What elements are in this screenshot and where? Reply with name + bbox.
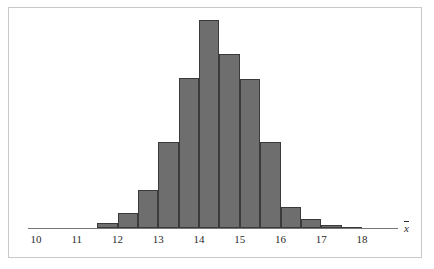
histogram-bar: [199, 20, 219, 228]
x-axis-title: x: [404, 221, 409, 235]
histogram-bar: [118, 213, 138, 228]
x-axis-tick-label: 18: [348, 233, 376, 246]
histogram-bar: [301, 219, 321, 228]
x-axis-tick-label: 15: [226, 233, 254, 246]
x-axis-tick-label: 10: [22, 233, 50, 246]
histogram-bar: [179, 78, 199, 228]
x-axis-tick-label: 14: [185, 233, 213, 246]
histogram-bar: [240, 79, 260, 228]
x-axis-tick-label: 12: [104, 233, 132, 246]
x-axis-tick-label: 17: [307, 233, 335, 246]
histogram-bar: [281, 207, 301, 228]
x-axis-tick-label: 13: [144, 233, 172, 246]
x-axis-tick-label: 16: [267, 233, 295, 246]
x-axis-tick-label: 11: [63, 233, 91, 246]
histogram-bar: [138, 190, 158, 228]
histogram-figure: 101112131415161718 x: [0, 0, 434, 269]
histogram-plot-area: 101112131415161718 x: [0, 0, 434, 269]
x-axis-line: [28, 228, 398, 229]
x-bar-symbol: x: [404, 221, 409, 235]
histogram-bar: [219, 54, 239, 228]
histogram-bar: [158, 142, 178, 228]
histogram-bar: [260, 142, 280, 228]
